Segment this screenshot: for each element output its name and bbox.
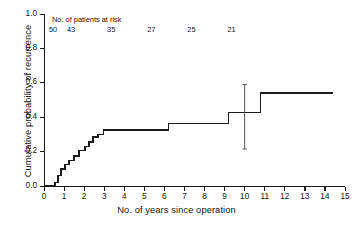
curve-layer — [0, 0, 353, 225]
step-curve — [44, 93, 333, 186]
kaplan-meier-chart: Cumulative probability of recurrence No.… — [0, 0, 353, 225]
error-bar — [242, 85, 246, 150]
